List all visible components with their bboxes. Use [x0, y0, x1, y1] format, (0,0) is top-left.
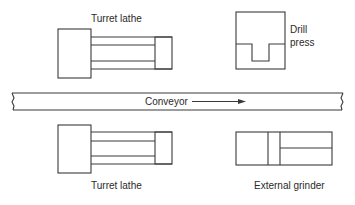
- arrow-right-icon: [238, 99, 246, 104]
- turret-lathe-bottom: Turret lathe: [58, 125, 172, 191]
- conveyor-break-left: [12, 93, 14, 110]
- machine-layout-diagram: Turret lathe Drill press Conveyor Turret…: [0, 0, 355, 205]
- conveyor: Conveyor: [12, 93, 343, 110]
- conveyor-label: Conveyor: [145, 96, 188, 107]
- external-grinder-label: External grinder: [254, 180, 325, 191]
- drill-press-label-line2: press: [290, 37, 314, 48]
- lathe-headstock: [58, 29, 91, 78]
- drill-press-label-line1: Drill: [290, 24, 307, 35]
- turret-lathe-bottom-label: Turret lathe: [91, 180, 142, 191]
- external-grinder: External grinder: [236, 132, 332, 191]
- conveyor-break-right: [341, 93, 343, 110]
- lathe-headstock: [58, 125, 91, 173]
- turret-lathe-top-label: Turret lathe: [91, 13, 142, 24]
- drill-press: Drill press: [236, 12, 314, 69]
- lathe-turret: [155, 37, 172, 69]
- turret-lathe-top: Turret lathe: [58, 13, 172, 78]
- lathe-turret: [155, 132, 172, 164]
- drill-press-table: [236, 44, 285, 61]
